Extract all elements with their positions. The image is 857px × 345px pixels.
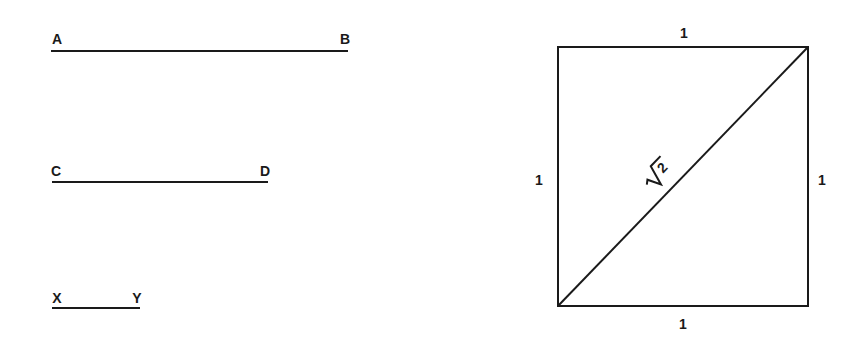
segment-cd: C D [51,163,270,182]
side-label-bottom: 1 [679,316,687,332]
side-label-left: 1 [535,172,543,188]
square-diagonal [558,47,808,306]
point-label-d: D [260,163,270,179]
segment-ab: A B [51,31,350,51]
point-label-x: X [52,290,62,306]
segment-xy: X Y [52,290,142,308]
side-label-top: 1 [680,25,688,41]
diagram-canvas: A B C D X Y 1 1 1 1 2 [0,0,857,345]
side-label-right: 1 [818,172,826,188]
diagonal-label-value: 2 [654,159,671,176]
point-label-a: A [52,31,62,47]
diagonal-label-sqrt2: 2 [640,156,675,191]
point-label-b: B [340,31,350,47]
point-label-y: Y [132,290,142,306]
unit-square-figure: 1 1 1 1 2 [535,25,826,332]
point-label-c: C [51,163,61,179]
